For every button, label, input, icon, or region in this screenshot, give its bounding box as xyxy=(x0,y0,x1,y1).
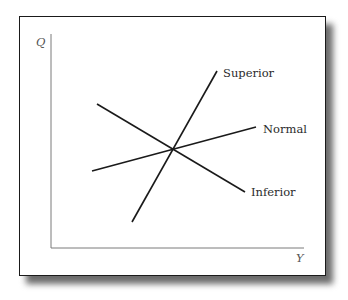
inferior-line xyxy=(97,104,245,192)
superior-line xyxy=(132,71,217,222)
y-axis-label: Q xyxy=(36,35,46,49)
normal-label: Normal xyxy=(263,122,307,136)
inferior-label: Inferior xyxy=(251,185,296,199)
engel-curve-plot: Q Y Superior Normal Inferior xyxy=(0,0,348,300)
diagram-stage: Q Y Superior Normal Inferior xyxy=(0,0,348,300)
superior-label: Superior xyxy=(223,66,275,80)
x-axis-label: Y xyxy=(296,251,305,265)
